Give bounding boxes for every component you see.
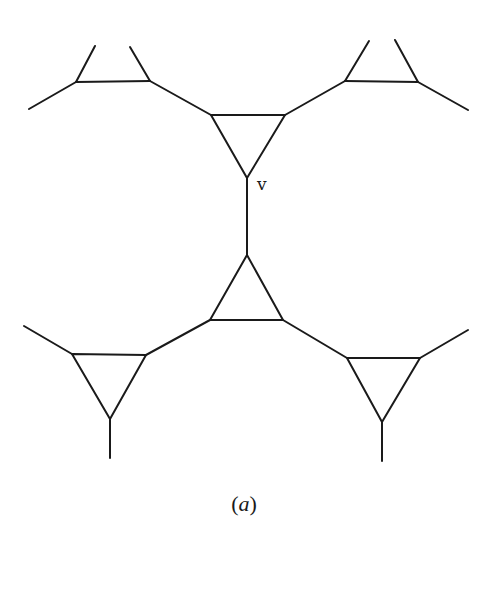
edge-top-right-stub-up-left (345, 41, 369, 81)
caption-close-paren: ) (250, 491, 257, 516)
figure-caption: (a) (231, 491, 257, 516)
triangle-bottom-right (347, 358, 420, 422)
graph-figure: v (a) (0, 0, 488, 593)
edge-top-center-to-top-right (285, 81, 345, 115)
edge-top-right-stub-up-right (395, 40, 418, 82)
edge-top-left-stub-up-left (76, 46, 95, 82)
edge-top-left-stub-left (29, 82, 76, 109)
edge-top-left-to-top-center (150, 81, 211, 115)
edge-bottom-center-to-bottom-right (283, 320, 347, 358)
triangle-top-right-partial (345, 81, 418, 82)
edge-top-right-stub-right (418, 82, 468, 110)
triangle-top-left-partial (76, 81, 150, 82)
triangle-bottom-left (72, 354, 146, 419)
graph-edges (24, 40, 468, 461)
edge-bottom-left-stub-left (24, 326, 72, 354)
edge-bottom-center-to-bottom-left (146, 320, 210, 355)
edge-bottom-right-stub-right (420, 330, 468, 358)
caption-open-paren: ( (231, 491, 238, 516)
edge-top-left-stub-up-right (130, 47, 150, 81)
triangle-bottom-center (210, 255, 283, 320)
caption-letter: a (239, 491, 250, 516)
vertex-label-v: v (256, 174, 267, 194)
triangle-top-center (211, 115, 285, 178)
